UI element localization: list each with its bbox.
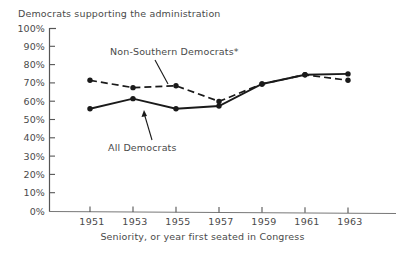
x-tick-label-1955: 1955 bbox=[165, 216, 190, 227]
data-point bbox=[345, 71, 350, 76]
x-axis-line bbox=[49, 212, 396, 214]
annotation-non-southern-democrats: Non-Southern Democrats* bbox=[110, 46, 239, 57]
y-tick-label-20: 20% bbox=[24, 169, 45, 180]
series-all-democrats bbox=[87, 71, 350, 111]
x-axis-title: Seniority, or year first seated in Congr… bbox=[0, 231, 405, 242]
y-tick-label-90: 90% bbox=[24, 41, 45, 52]
series-line bbox=[90, 75, 348, 102]
data-point bbox=[216, 103, 221, 108]
data-point bbox=[87, 78, 92, 83]
y-axis-ticks bbox=[50, 46, 56, 192]
leader-arrowhead-all-democrats bbox=[142, 110, 148, 117]
x-tick-label-1953: 1953 bbox=[122, 216, 147, 227]
line-chart-plot: 100% 90% 80% 70% 60% 50% 40% 30% 20% 10%… bbox=[0, 0, 405, 255]
x-tick-label-1963: 1963 bbox=[337, 216, 362, 227]
y-axis-tick-labels: 100% 90% 80% 70% 60% 50% 40% 30% 20% 10%… bbox=[17, 23, 45, 217]
y-tick-label-70: 70% bbox=[24, 77, 45, 88]
y-tick-label-40: 40% bbox=[24, 132, 45, 143]
y-tick-label-50: 50% bbox=[24, 114, 45, 125]
x-tick-label-1961: 1961 bbox=[294, 216, 319, 227]
y-tick-label-0: 0% bbox=[30, 206, 45, 217]
y-tick-label-100: 100% bbox=[17, 23, 45, 34]
x-axis-tick-labels: 1951 1953 1955 1957 1959 1961 1963 bbox=[79, 216, 362, 227]
data-point bbox=[173, 106, 178, 111]
annotation-all-democrats: All Democrats bbox=[108, 142, 177, 153]
x-tick-label-1959: 1959 bbox=[251, 216, 276, 227]
data-point bbox=[173, 83, 178, 88]
y-tick-label-30: 30% bbox=[24, 151, 45, 162]
data-series-layer bbox=[87, 71, 350, 111]
data-point bbox=[130, 96, 135, 101]
data-point bbox=[259, 81, 264, 86]
y-tick-label-10: 10% bbox=[24, 187, 45, 198]
data-point bbox=[302, 72, 307, 77]
leader-line-non-southern-democrats bbox=[155, 60, 168, 84]
chart-figure: Democrats supporting the administration … bbox=[0, 0, 405, 255]
data-point bbox=[130, 85, 135, 90]
data-point bbox=[345, 78, 350, 83]
data-point bbox=[87, 106, 92, 111]
leader-line-all-democrats bbox=[144, 113, 152, 140]
y-tick-label-60: 60% bbox=[24, 96, 45, 107]
x-tick-label-1957: 1957 bbox=[208, 216, 233, 227]
y-tick-label-80: 80% bbox=[24, 59, 45, 70]
x-tick-label-1951: 1951 bbox=[79, 216, 104, 227]
